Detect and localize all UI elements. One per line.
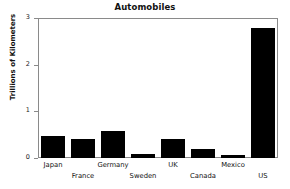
x-axis-label: UK: [168, 161, 177, 169]
bar: [41, 136, 65, 158]
y-axis-tick-label: 0: [26, 153, 30, 162]
bar: [161, 139, 185, 158]
bar-chart: Automobiles Trillions of Kilometers 0123…: [0, 0, 290, 189]
bar: [101, 131, 125, 158]
x-axis-label: Canada: [190, 172, 216, 180]
bar: [221, 155, 245, 158]
x-axis-label: France: [72, 172, 95, 180]
y-axis-tick: 1: [0, 111, 38, 112]
chart-title: Automobiles: [0, 2, 290, 12]
bar: [191, 149, 215, 158]
y-axis-tick-label: 1: [26, 106, 30, 115]
y-axis-tick: 0: [0, 158, 38, 159]
y-axis-tick: 2: [0, 65, 38, 66]
x-axis-label: Sweden: [130, 172, 157, 180]
bar: [71, 139, 95, 158]
x-axis-labels: JapanFranceGermanySwedenUKCanadaMexicoUS: [38, 159, 278, 189]
x-axis-label: Japan: [44, 161, 63, 169]
bars-group: [38, 18, 278, 158]
bar: [251, 28, 275, 158]
x-axis-label: Germany: [97, 161, 128, 169]
y-axis-tick-label: 2: [26, 60, 30, 69]
y-axis-tick-label: 3: [26, 13, 30, 22]
x-axis-label: Mexico: [221, 161, 245, 169]
bar: [131, 154, 155, 158]
x-axis-label: US: [258, 172, 267, 180]
y-axis-tick: 3: [0, 18, 38, 19]
